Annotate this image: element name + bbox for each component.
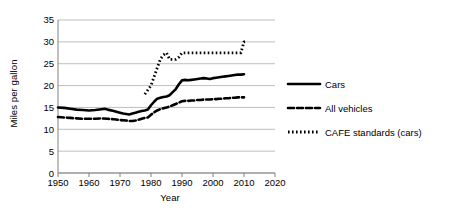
series-line-cafe-standards [145,42,247,94]
x-tick-label-1960: 1960 [74,177,104,188]
y-axis-title: Miles per gallon [8,55,19,133]
legend-label-cafe-standards: CAFE standards (cars) [325,127,422,138]
polyline-cafe-standards-cars [145,42,247,94]
x-tick-label-2020: 2020 [260,177,290,188]
y-tick-label-5: 5 [32,146,54,157]
legend-swatches [288,84,320,132]
series-line-cars [58,74,244,114]
chart-plot-area [0,0,450,222]
y-tick-label-25: 25 [32,58,54,69]
y-tick-label-15: 15 [32,102,54,113]
x-tick-label-1950: 1950 [43,177,73,188]
legend-label-cars: Cars [325,79,345,90]
legend-label-all-vehicles: All vehicles [325,103,373,114]
y-tick-label-10: 10 [32,124,54,135]
polyline-cars [58,74,244,114]
chart-figure: Miles per gallon Year 35 30 25 20 15 10 … [0,0,450,222]
x-axis-title: Year [135,192,205,203]
y-tick-label-20: 20 [32,80,54,91]
x-tick-label-2000: 2000 [198,177,228,188]
x-tick-label-1990: 1990 [167,177,197,188]
y-tick-label-30: 30 [32,36,54,47]
x-tick-label-2010: 2010 [229,177,259,188]
y-tick-label-35: 35 [32,14,54,25]
x-tick-label-1970: 1970 [105,177,135,188]
x-tick-label-1980: 1980 [136,177,166,188]
